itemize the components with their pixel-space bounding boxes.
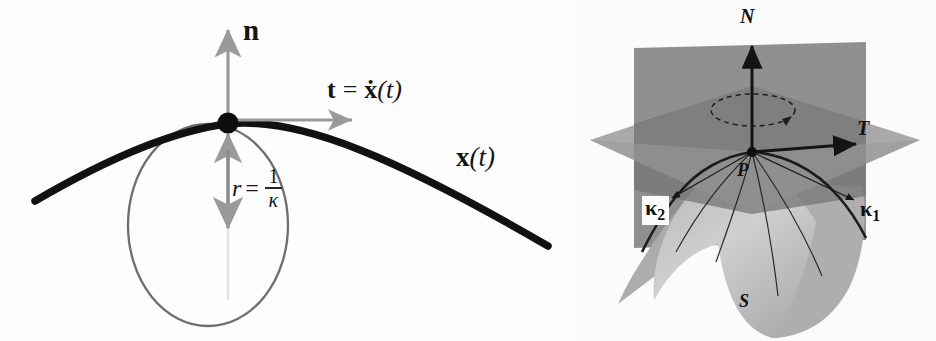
- surface-point-P: [747, 147, 757, 157]
- osculating-circle: [128, 124, 288, 326]
- fraction-denominator: κ: [266, 189, 282, 210]
- radius-equals-sign: =: [245, 176, 259, 200]
- tangent-equation-label: t=ẋ(t): [327, 77, 402, 103]
- tangent-rhs-argument: (t): [377, 75, 402, 104]
- radius-equation-label: r = 1 κ: [232, 166, 282, 210]
- tangency-point: [218, 113, 239, 134]
- normal-axis-label: N: [740, 6, 754, 26]
- principal-curvature-2-label: κ2: [642, 196, 669, 225]
- curve-argument: (t): [470, 142, 495, 172]
- osculating-circle-diagram: n t=ẋ(t) x(t) r = 1 κ: [0, 0, 560, 341]
- principal-curvature-surface-diagram: N T P S κ1 κ2: [576, 0, 936, 341]
- tangent-axis-label: T: [857, 118, 869, 138]
- figure-root: n t=ẋ(t) x(t) r = 1 κ: [0, 0, 936, 341]
- fraction-numerator: 1: [265, 166, 281, 187]
- surface-curvature-canvas: [576, 0, 936, 341]
- curvature-fraction: 1 κ: [265, 166, 282, 210]
- surface-label: S: [739, 292, 749, 310]
- kappa-1-symbol: κ: [860, 196, 872, 221]
- curve-symbol: x: [456, 142, 470, 172]
- tangent-rhs-vector: ẋ: [364, 75, 377, 104]
- radius-symbol: r: [232, 176, 241, 200]
- kappa-2-subscript: 2: [657, 206, 665, 223]
- kappa-1-subscript: 1: [872, 207, 880, 224]
- surface-point-label: P: [737, 160, 749, 179]
- curve-label: x(t): [456, 144, 495, 171]
- principal-curvature-1-label: κ1: [860, 198, 880, 224]
- tangent-equals-sign: =: [343, 75, 358, 104]
- normal-vector-label: n: [243, 16, 259, 45]
- kappa-2-symbol: κ: [645, 195, 657, 220]
- tangent-lhs-symbol: t: [327, 75, 336, 104]
